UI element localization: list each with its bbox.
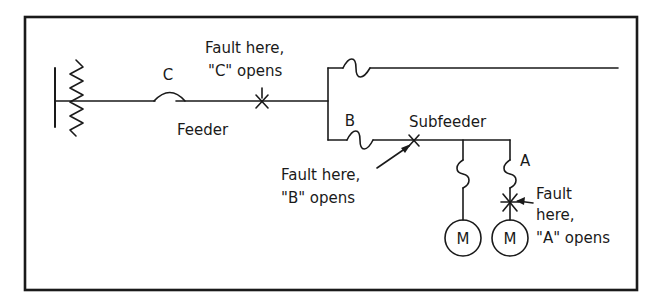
breaker-c-icon bbox=[154, 93, 185, 102]
fuse-a-icon bbox=[504, 160, 516, 188]
fault-a-arrowhead bbox=[516, 197, 525, 205]
motor-2-label: M bbox=[504, 230, 517, 248]
fault-c-icon bbox=[256, 88, 268, 108]
fuse-a-label: A bbox=[520, 152, 531, 170]
fault-b-annotation: Fault here, bbox=[281, 166, 360, 184]
fault-c-annotation: Fault here, bbox=[205, 39, 284, 57]
subfeeder-label: Subfeeder bbox=[409, 113, 487, 131]
branch-1-fuse-icon bbox=[457, 160, 469, 188]
diagram-frame bbox=[25, 17, 637, 290]
fault-b-arrowhead bbox=[401, 144, 411, 153]
breaker-c-label: C bbox=[163, 66, 173, 84]
fault-c-annotation: "C" opens bbox=[208, 62, 282, 80]
feeder-label: Feeder bbox=[177, 121, 229, 139]
fuse-b-label: B bbox=[345, 112, 355, 130]
fuse-b-icon bbox=[347, 131, 373, 149]
fault-a-annotation: here, bbox=[536, 206, 575, 224]
fault-b-annotation: "B" opens bbox=[281, 189, 355, 207]
resistor-icon bbox=[70, 60, 83, 136]
motor-1-label: M bbox=[457, 230, 470, 248]
fault-a-annotation: Fault bbox=[536, 185, 572, 203]
top-fuse-icon bbox=[343, 59, 370, 77]
one-line-diagram: C Fault here, "C" opens Feeder B Subfeed… bbox=[0, 0, 662, 308]
fault-a-annotation: "A" opens bbox=[536, 229, 610, 247]
